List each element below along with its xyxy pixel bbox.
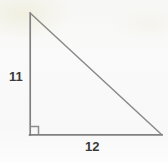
right-angle-marker-icon <box>31 127 39 135</box>
triangle-drawing <box>0 0 168 162</box>
horizontal-leg-label: 12 <box>85 140 99 154</box>
triangle-figure: 11 12 <box>0 0 168 162</box>
vertical-leg-label: 11 <box>9 70 23 84</box>
hypotenuse-line <box>30 13 161 135</box>
